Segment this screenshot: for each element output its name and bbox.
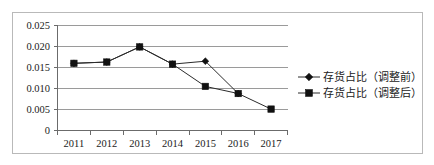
diamond-marker bbox=[305, 73, 313, 81]
chart-legend: 存货占比（调整前） 存货占比（调整后） bbox=[298, 70, 422, 99]
square-marker bbox=[202, 83, 208, 89]
x-tick-labels: 2011 2012 2013 2014 2015 2016 2017 bbox=[64, 138, 282, 149]
legend-label-0: 存货占比（调整前） bbox=[323, 70, 422, 83]
y-tick-label-4: 0.005 bbox=[26, 104, 50, 115]
x-tick-label-2012: 2012 bbox=[96, 138, 117, 149]
chart-figure: 0.025 0.020 0.015 0.010 0.005 0 2011 201… bbox=[0, 0, 434, 165]
y-tickmarks bbox=[54, 26, 58, 131]
square-marker bbox=[136, 44, 142, 50]
y-tick-label-2: 0.015 bbox=[26, 62, 50, 73]
x-tick-label-2013: 2013 bbox=[129, 138, 150, 149]
legend-entry-1[interactable]: 存货占比（调整后） bbox=[298, 86, 422, 99]
series-line bbox=[74, 47, 238, 94]
y-tick-labels: 0.025 0.020 0.015 0.010 0.005 0 bbox=[26, 20, 50, 136]
square-marker bbox=[71, 60, 77, 66]
y-tick-label-1: 0.020 bbox=[26, 41, 50, 52]
line-chart: 0.025 0.020 0.015 0.010 0.005 0 2011 201… bbox=[0, 0, 434, 165]
series-line bbox=[74, 47, 271, 109]
axes bbox=[58, 26, 288, 131]
x-tickmarks bbox=[58, 131, 288, 135]
y-tick-label-3: 0.010 bbox=[26, 83, 50, 94]
data-series-layer bbox=[71, 44, 275, 113]
square-marker bbox=[169, 61, 175, 67]
x-tick-label-2017: 2017 bbox=[261, 138, 282, 149]
y-tick-label-0: 0.025 bbox=[26, 20, 50, 31]
y-tick-label-5: 0 bbox=[45, 125, 50, 136]
legend-entry-0[interactable]: 存货占比（调整前） bbox=[298, 70, 422, 83]
legend-label-1: 存货占比（调整后） bbox=[323, 86, 422, 99]
square-marker bbox=[306, 90, 313, 97]
x-tick-label-2015: 2015 bbox=[195, 138, 216, 149]
series-adjusted-after bbox=[71, 44, 275, 113]
x-tick-label-2016: 2016 bbox=[228, 138, 249, 149]
x-tick-label-2014: 2014 bbox=[162, 138, 184, 149]
square-marker bbox=[104, 59, 110, 65]
x-tick-label-2011: 2011 bbox=[64, 138, 85, 149]
square-marker bbox=[268, 106, 274, 112]
square-marker bbox=[235, 90, 241, 96]
